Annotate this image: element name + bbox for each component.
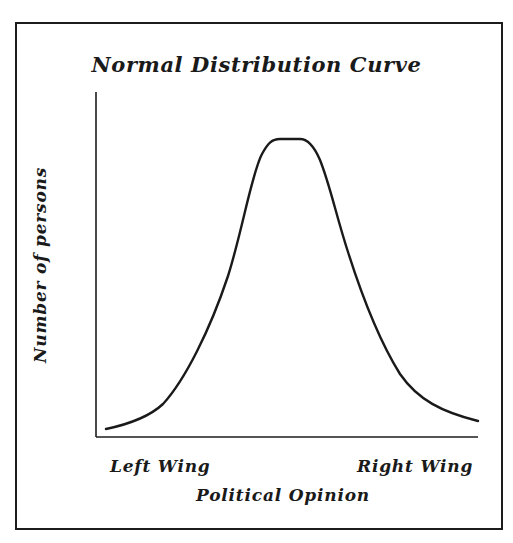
x-axis-label: Political Opinion — [0, 485, 513, 505]
x-tick-label-right-wing: Right Wing — [357, 456, 473, 476]
y-axis-label: Number of persons — [30, 167, 50, 363]
distribution-curve — [106, 139, 478, 429]
x-tick-label-left-wing: Left Wing — [110, 456, 211, 476]
